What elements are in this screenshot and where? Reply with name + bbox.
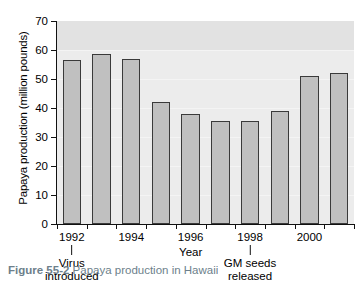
- x-axis-tick: [295, 224, 296, 229]
- annotation-gm-seeds: GM seedsreleased: [224, 245, 276, 283]
- y-axis-tick: [51, 21, 57, 22]
- x-axis-tick: [146, 224, 147, 229]
- bar: [63, 60, 81, 224]
- bar: [271, 111, 289, 224]
- y-axis-tick-label: 70: [35, 15, 48, 27]
- figure-caption-label: Figure 55-2: [8, 264, 69, 276]
- annotation-line-2: released: [224, 270, 276, 283]
- gridline: [57, 50, 354, 51]
- bar: [122, 59, 140, 224]
- bar: [330, 73, 348, 224]
- x-axis-tick: [235, 224, 236, 229]
- bar: [241, 121, 259, 224]
- x-axis-tick-label: 1994: [118, 231, 144, 243]
- annotation-leader-line: [71, 245, 72, 255]
- bar: [300, 76, 318, 224]
- x-axis-tick: [354, 224, 355, 229]
- x-axis-title: Year: [179, 246, 202, 258]
- bar: [181, 114, 199, 224]
- figure-caption: Figure 55-2 Papaya production in Hawaii: [8, 264, 218, 276]
- x-axis-tick: [324, 224, 325, 229]
- y-axis-tick-label: 20: [35, 160, 48, 172]
- y-axis-tick-label: 50: [35, 73, 48, 85]
- y-axis-title: Papaya production (million pounds): [17, 11, 29, 225]
- y-axis-tick-label: 10: [35, 189, 48, 201]
- x-axis-tick-label: 2000: [297, 231, 323, 243]
- bar: [92, 54, 110, 224]
- figure-caption-text: Papaya production in Hawaii: [73, 264, 219, 276]
- x-axis-tick: [206, 224, 207, 229]
- x-axis-tick: [116, 224, 117, 229]
- y-axis-tick-label: 0: [42, 218, 48, 230]
- x-axis-tick: [176, 224, 177, 229]
- y-axis-tick-label: 30: [35, 131, 48, 143]
- x-axis-tick: [87, 224, 88, 229]
- annotation-leader-line: [250, 245, 251, 255]
- annotation-line-1: GM seeds: [224, 257, 276, 270]
- x-axis-tick-label: 1996: [178, 231, 204, 243]
- bar: [152, 102, 170, 224]
- x-axis-tick-label: 1992: [59, 231, 85, 243]
- bar: [211, 121, 229, 224]
- y-axis-tick-label: 60: [35, 44, 48, 56]
- plot-area: 01020304050607019921994199619982000YearV…: [56, 21, 354, 225]
- x-axis-tick: [265, 224, 266, 229]
- x-axis-tick-label: 1998: [237, 231, 263, 243]
- y-axis-tick-label: 40: [35, 102, 48, 114]
- x-axis-tick: [57, 224, 58, 229]
